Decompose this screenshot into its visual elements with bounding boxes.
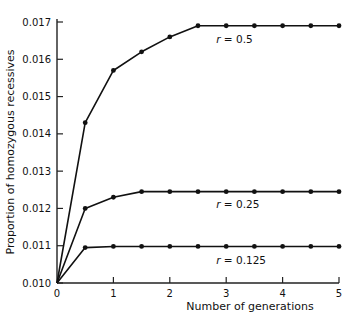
series-labels: r = 0.5r = 0.25r = 0.125: [216, 33, 266, 266]
data-point: [337, 189, 342, 194]
y-tick-label: 0.014: [22, 128, 51, 139]
series-line: [57, 192, 339, 283]
axes: 0.0100.0110.0120.0130.0140.0150.0160.017…: [22, 17, 342, 300]
data-point: [337, 23, 342, 28]
data-point: [196, 244, 201, 249]
y-tick-label: 0.017: [22, 17, 51, 28]
data-point: [196, 23, 201, 28]
data-point: [111, 195, 116, 200]
x-tick-label: 0: [54, 288, 60, 299]
data-point: [224, 244, 229, 249]
x-tick-label: 3: [223, 288, 229, 299]
data-point: [308, 244, 313, 249]
data-point: [167, 35, 172, 40]
data-point: [139, 244, 144, 249]
x-tick-label: 1: [110, 288, 116, 299]
series-label: r = 0.5: [216, 33, 253, 45]
x-tick-label: 5: [336, 288, 342, 299]
data-point: [111, 68, 116, 73]
series-group: [57, 23, 341, 283]
line-chart: 0.0100.0110.0120.0130.0140.0150.0160.017…: [0, 0, 353, 326]
data-point: [308, 23, 313, 28]
data-point: [252, 189, 257, 194]
series-line: [57, 246, 339, 283]
data-point: [167, 189, 172, 194]
y-tick-label: 0.011: [22, 240, 51, 251]
data-point: [224, 23, 229, 28]
data-point: [111, 244, 116, 249]
data-point: [252, 244, 257, 249]
data-point: [308, 189, 313, 194]
data-point: [337, 244, 342, 249]
data-point: [83, 120, 88, 125]
y-tick-label: 0.015: [22, 91, 51, 102]
x-axis-label: Number of generations: [186, 300, 314, 313]
y-tick-label: 0.013: [22, 166, 51, 177]
chart-canvas: 0.0100.0110.0120.0130.0140.0150.0160.017…: [0, 0, 353, 326]
series-label: r = 0.25: [216, 198, 259, 210]
y-tick-label: 0.012: [22, 203, 51, 214]
data-point: [252, 23, 257, 28]
x-tick-label: 2: [167, 288, 173, 299]
series-label: r = 0.125: [216, 254, 266, 266]
data-point: [139, 189, 144, 194]
data-point: [83, 206, 88, 211]
y-tick-label: 0.016: [22, 54, 51, 65]
x-tick-label: 4: [279, 288, 285, 299]
data-point: [167, 244, 172, 249]
y-tick-label: 0.010: [22, 278, 51, 289]
data-point: [196, 189, 201, 194]
data-point: [83, 245, 88, 250]
y-axis-label: Proportion of homozygous recessives: [4, 49, 17, 254]
data-point: [280, 23, 285, 28]
data-point: [139, 49, 144, 54]
data-point: [280, 189, 285, 194]
data-point: [280, 244, 285, 249]
data-point: [224, 189, 229, 194]
